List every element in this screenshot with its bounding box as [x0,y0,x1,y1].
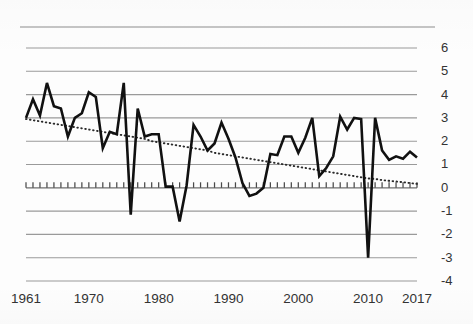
y-axis-tick-label: 4 [441,87,448,102]
annual-value-line [26,83,417,258]
x-axis-labels-group: 1961197019801990200020102017 [11,291,432,306]
y-axis-tick-label: 0 [441,180,448,195]
y-axis-tick-label: -1 [441,203,453,218]
y-axis-tick-label: 2 [441,133,448,148]
x-axis-tick-label: 2017 [402,291,432,306]
series-group [26,83,417,258]
x-axis-tick-label: 2000 [283,291,313,306]
y-axis-labels-group: 6543210-1-2-3-4 [441,40,453,288]
x-axis-tick-label: 1990 [213,291,243,306]
y-axis-tick-label: 5 [441,63,448,78]
trendline-group [26,119,417,184]
y-axis-tick-label: -3 [441,250,453,265]
x-axis-tick-label: 1980 [144,291,174,306]
zero-axis-ticks-group [26,182,417,188]
line-chart: 6543210-1-2-3-4 196119701980199020002010… [0,0,473,324]
x-axis-tick-label: 2010 [353,291,383,306]
x-axis-tick-label: 1961 [11,291,41,306]
y-axis-tick-label: 3 [441,110,448,125]
y-axis-tick-label: -4 [441,273,453,288]
x-axis-tick-label: 1970 [74,291,104,306]
trendline-path [26,119,417,184]
y-axis-tick-label: 6 [441,40,448,55]
y-axis-tick-label: -2 [441,226,453,241]
y-axis-tick-label: 1 [441,156,448,171]
chart-canvas: 6543210-1-2-3-4 196119701980199020002010… [0,0,473,324]
